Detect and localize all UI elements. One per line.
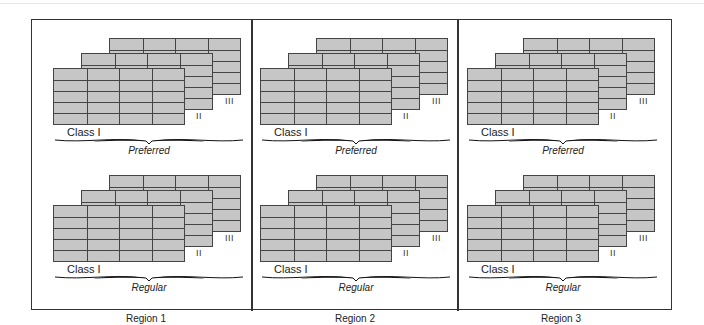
tier-label-preferred: Preferred: [503, 145, 623, 156]
class-iii-label: III: [225, 233, 234, 243]
sheet-class-i: [260, 68, 392, 125]
sheet-class-i: [53, 68, 185, 125]
sheet-class-i: [467, 205, 599, 262]
class-ii-label: II: [403, 248, 409, 258]
tier-label-preferred: Preferred: [89, 145, 209, 156]
class-ii-label: II: [610, 248, 616, 258]
region-label-2: Region 2: [305, 313, 405, 324]
class-iii-label: III: [639, 96, 648, 106]
region-label-3: Region 3: [511, 313, 611, 324]
class-ii-label: II: [196, 248, 202, 258]
tier-label-preferred: Preferred: [296, 145, 416, 156]
class-iii-label: III: [639, 233, 648, 243]
sheet-class-i: [260, 205, 392, 262]
class-ii-label: II: [403, 111, 409, 121]
region-divider-2: [457, 19, 459, 311]
sheet-class-i: [467, 68, 599, 125]
region-label-1: Region 1: [96, 313, 196, 324]
class-ii-label: II: [610, 111, 616, 121]
region-divider-1: [251, 19, 253, 311]
class-iii-label: III: [432, 96, 441, 106]
tier-label-regular: Regular: [503, 282, 623, 293]
class-iii-label: III: [432, 233, 441, 243]
sheet-class-i: [53, 205, 185, 262]
class-iii-label: III: [225, 96, 234, 106]
scan-artifact-line: [0, 3, 704, 4]
tier-label-regular: Regular: [89, 282, 209, 293]
class-ii-label: II: [196, 111, 202, 121]
tier-label-regular: Regular: [296, 282, 416, 293]
